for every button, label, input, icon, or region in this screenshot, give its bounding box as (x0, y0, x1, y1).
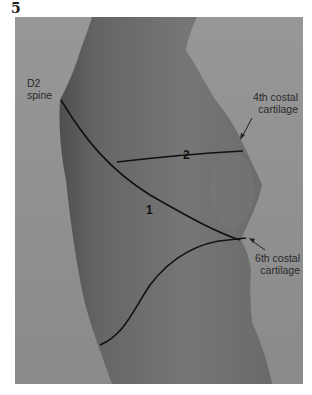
label-d2-line2: spine (27, 89, 52, 101)
label-6th-line1: 6th costal (240, 252, 300, 264)
label-d2-line1: D2 (27, 77, 52, 89)
figure-number: 5 (11, 0, 21, 16)
label-6th-costal-cartilage: 6th costal cartilage (240, 252, 300, 276)
label-d2-spine: D2 spine (27, 77, 52, 101)
breast-shading (210, 152, 254, 228)
photo-illustration (15, 17, 303, 384)
label-4th-line1: 4th costal (235, 91, 298, 103)
anatomical-photo: D2 spine 4th costal cartilage 6th costal… (15, 17, 303, 384)
line-number-1: 1 (146, 203, 153, 217)
label-4th-line2: cartilage (235, 103, 298, 115)
label-4th-costal-cartilage: 4th costal cartilage (235, 91, 298, 115)
line-number-2: 2 (183, 148, 190, 162)
label-6th-line2: cartilage (240, 264, 300, 276)
